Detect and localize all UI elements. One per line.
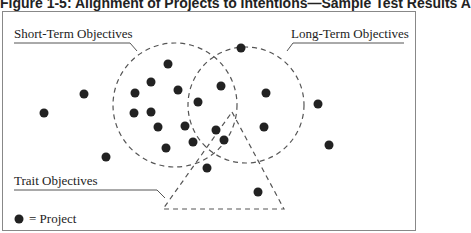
project-dot [40, 109, 49, 118]
project-dot [325, 141, 334, 150]
legend-dot-icon [15, 215, 24, 224]
project-dot [262, 89, 271, 98]
project-dot [80, 90, 89, 99]
project-dot [102, 153, 111, 162]
short-term-label: Short-Term Objectives [14, 26, 133, 42]
project-dot [194, 98, 203, 107]
project-dot [162, 144, 171, 153]
trait-leader [14, 190, 165, 198]
project-dot [147, 108, 156, 117]
project-dot [212, 126, 221, 135]
project-dot [237, 44, 246, 53]
project-dot [189, 138, 198, 147]
project-dot [164, 60, 173, 69]
long-term-label: Long-Term Objectives [291, 26, 409, 42]
project-dot [181, 122, 190, 131]
project-dot [220, 136, 229, 145]
legend-label: = Project [29, 211, 76, 227]
project-dot [154, 123, 163, 132]
project-dot [314, 100, 323, 109]
project-dot [254, 188, 263, 197]
project-dot [130, 109, 139, 118]
project-dot [260, 123, 269, 132]
long-term-circle [188, 47, 304, 163]
short-term-circle [113, 43, 237, 167]
project-dot [174, 86, 183, 95]
project-dot [203, 164, 212, 173]
short-term-leader [14, 43, 137, 51]
project-dot [147, 78, 156, 87]
trait-label: Trait Objectives [14, 173, 98, 189]
project-dot [131, 89, 140, 98]
long-term-leader [287, 43, 404, 51]
project-dot [217, 82, 226, 91]
